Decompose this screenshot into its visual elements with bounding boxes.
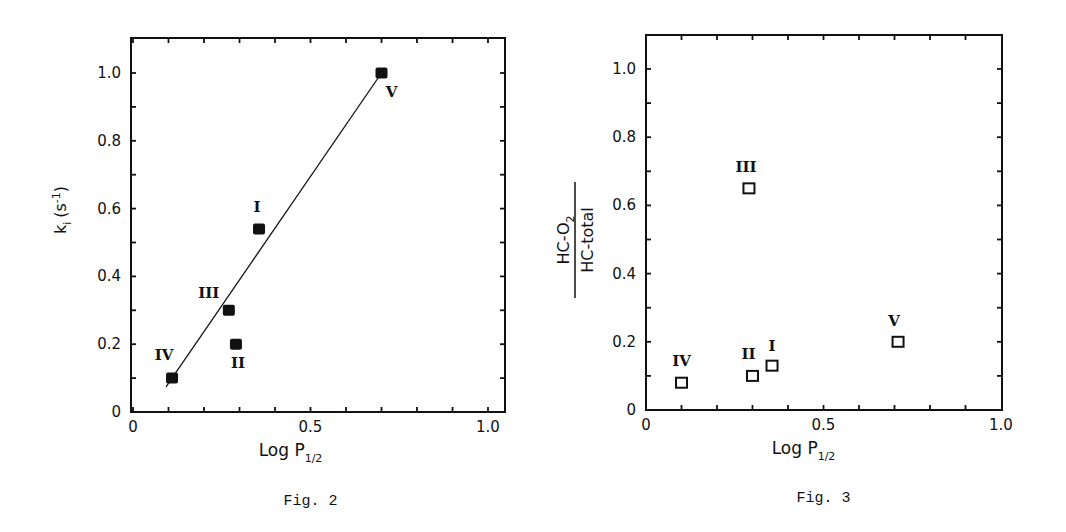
data-point	[893, 337, 904, 347]
x-tick-label: 0.5	[299, 418, 323, 436]
y-axis-label: ki(s-1)	[50, 186, 74, 234]
data-point	[743, 183, 754, 193]
y-tick-label: 0.4	[612, 265, 636, 283]
y-tick-label: 1.0	[612, 60, 636, 78]
data-point	[676, 378, 687, 388]
y-label-denominator: HC-total	[578, 207, 597, 273]
point-label: IV	[672, 352, 691, 370]
data-point	[747, 371, 758, 381]
point-label: III	[198, 284, 219, 302]
data-point	[253, 223, 265, 234]
point-label: V	[887, 312, 900, 330]
y-tick-label: 0.6	[612, 196, 636, 214]
x-tick-label: 0.5	[812, 416, 836, 434]
regression-line	[166, 73, 381, 387]
fig2-chart: 00.51.000.20.40.60.81.0Log P1/2Fig. 2III…	[50, 38, 505, 510]
y-tick-label: 0.2	[97, 335, 121, 353]
y-tick-label: 0.8	[97, 132, 121, 150]
y-tick-label: 0.8	[612, 128, 636, 146]
figure-caption: Fig. 3	[796, 490, 850, 507]
fig3-chart: 00.51.000.20.40.60.81.0Log P1/2Fig. 3III…	[554, 35, 1013, 507]
x-tick-label: 1.0	[476, 418, 500, 436]
point-label: IV	[155, 346, 174, 364]
plot-frame	[646, 35, 1002, 410]
x-tick-label: 0	[128, 418, 138, 436]
y-label-numerator: HC-O2	[554, 215, 577, 264]
point-label: III	[735, 158, 756, 176]
point-label: I	[769, 337, 776, 355]
y-tick-label: 1.0	[97, 64, 121, 82]
figures-canvas: 00.51.000.20.40.60.81.0Log P1/2Fig. 2III…	[0, 0, 1066, 532]
data-point	[376, 68, 388, 79]
x-tick-label: 0	[641, 416, 651, 434]
point-label: II	[741, 345, 755, 363]
y-tick-label: 0.2	[612, 333, 636, 351]
data-point	[166, 373, 178, 384]
point-label: V	[385, 83, 398, 101]
x-axis-label: Log P1/2	[772, 438, 836, 463]
y-tick-label: 0.6	[97, 200, 121, 218]
x-tick-label: 1.0	[989, 416, 1013, 434]
data-point	[767, 361, 778, 371]
y-tick-label: 0	[626, 401, 636, 419]
y-tick-label: 0.4	[97, 267, 121, 285]
figure-page: 00.51.000.20.40.60.81.0Log P1/2Fig. 2III…	[0, 0, 1066, 532]
x-axis-label: Log P1/2	[259, 440, 323, 465]
data-point	[223, 305, 235, 316]
data-point	[230, 339, 242, 350]
point-label: II	[231, 354, 245, 372]
y-tick-label: 0	[111, 403, 121, 421]
y-axis-label: HC-O2HC-total	[554, 182, 597, 298]
figure-caption: Fig. 2	[283, 493, 337, 510]
point-label: I	[254, 198, 261, 216]
